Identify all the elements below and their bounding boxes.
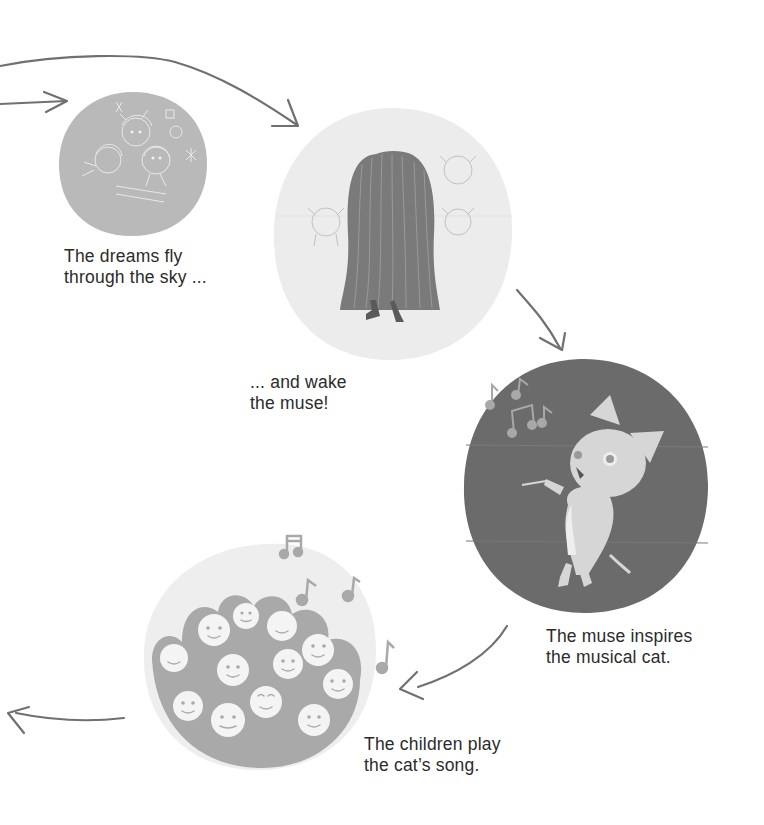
dreams-illustration (56, 90, 210, 238)
muse-caption: ... and wake the muse! (250, 372, 347, 414)
cat-caption: The muse inspires the musical cat. (546, 626, 692, 668)
arrow-cat-to-children-icon (400, 626, 507, 699)
cat-illustration (460, 355, 712, 617)
children-illustration (138, 530, 398, 776)
arrow-muse-to-cat-icon (517, 290, 565, 350)
story-cycle-diagram: The dreams fly through the sky ... (0, 0, 764, 825)
singing-children-icon (138, 530, 398, 776)
conductor-cat-icon (460, 355, 712, 617)
muse-illustration (268, 104, 516, 364)
children-caption: The children play the cat’s song. (364, 734, 501, 776)
long-haired-muse-icon (268, 104, 516, 364)
dreams-sketch-icon (56, 90, 210, 238)
dreams-caption: The dreams fly through the sky ... (64, 246, 207, 288)
arrow-out-of-children-icon (8, 707, 124, 733)
